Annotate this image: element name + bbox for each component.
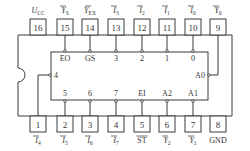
svg-text:I2: I2: [138, 6, 145, 16]
inversion-bubble: [192, 50, 195, 53]
inner-label-eo: EO: [60, 54, 71, 63]
inversion-bubble: [64, 100, 67, 103]
pin-number: 6: [165, 120, 170, 130]
inner-label-gs: GS: [85, 54, 95, 63]
pin-number: 13: [112, 23, 122, 33]
pin-number: 3: [88, 120, 93, 130]
inversion-bubble: [64, 50, 67, 53]
inversion-bubble: [141, 50, 144, 53]
svg-text:ST: ST: [137, 136, 146, 145]
pin-8-label: GND: [209, 136, 227, 145]
pin-9: 9Y0: [210, 6, 226, 35]
svg-text:GND: GND: [209, 136, 227, 145]
inversion-bubble: [192, 100, 195, 103]
pin-2: 2I5: [57, 116, 73, 146]
pin-number: 8: [216, 120, 221, 130]
pin-8: 8GND: [209, 116, 227, 145]
svg-text:Y0: Y0: [214, 6, 221, 16]
pin-4: 4I7: [108, 116, 124, 146]
pin-number: 7: [191, 120, 196, 130]
inversion-bubble: [166, 100, 169, 103]
svg-text:UCC: UCC: [31, 6, 44, 16]
pin-number: 4: [114, 120, 119, 130]
pin-12-label: I2: [137, 6, 145, 16]
inversion-bubble: [89, 50, 92, 53]
pin-6-label: Y2: [162, 136, 171, 146]
pin-3-label: I6: [85, 136, 93, 146]
inner-label-3: 3: [114, 54, 118, 63]
pin-1: 1I4: [30, 116, 46, 146]
pin-number: 9: [216, 23, 221, 33]
pin-3: 3I6: [82, 116, 98, 146]
pin-1-label: I4: [33, 136, 41, 146]
inner-label-2: 2: [140, 54, 144, 63]
pin-number: 1: [36, 120, 41, 130]
pin-number: 11: [163, 23, 172, 33]
pin-number: 2: [63, 120, 68, 130]
inner-label-a2: A2: [162, 89, 172, 98]
svg-text:I1: I1: [163, 6, 170, 16]
inner-label-1: 1: [165, 54, 169, 63]
pin-2-label: I5: [60, 136, 68, 146]
pin-16-label: UCC: [31, 6, 44, 16]
pin-wires: [38, 35, 218, 116]
inversion-bubble: [166, 50, 169, 53]
svg-text:Y1: Y1: [189, 136, 196, 146]
pin-9-label: Y0: [213, 6, 222, 16]
svg-text:YEX: YEX: [84, 6, 96, 16]
pin-10: 10I0: [185, 6, 201, 35]
inner-label-0: 0: [191, 54, 195, 63]
pin-6: 6Y2: [159, 116, 175, 146]
pin-5: 5ST: [134, 116, 150, 145]
svg-text:I3: I3: [112, 6, 119, 16]
inversion-bubble: [141, 100, 144, 103]
inversion-bubble: [89, 100, 92, 103]
svg-text:YS: YS: [61, 6, 69, 16]
inversion-bubble: [208, 74, 211, 77]
svg-text:I6: I6: [86, 136, 93, 146]
pin-4-label: I7: [111, 136, 119, 146]
inner-label-a1: A1: [188, 89, 198, 98]
svg-text:I0: I0: [189, 6, 196, 16]
pin-14-label: YEX: [84, 6, 96, 16]
inner-pin-labels: EOGS3210567EIA2A14A0: [54, 54, 205, 98]
inner-label-6: 6: [88, 89, 92, 98]
svg-text:I7: I7: [112, 136, 119, 146]
pin-16: 16UCC: [30, 6, 46, 35]
pin-number: 10: [189, 23, 199, 33]
pin-number: 16: [34, 23, 44, 33]
pin-7: 7Y1: [185, 116, 201, 146]
pin-7-label: Y1: [188, 136, 197, 146]
svg-text:I5: I5: [61, 136, 68, 146]
pin-5-label: ST: [137, 136, 148, 145]
pin-13-label: I3: [111, 6, 119, 16]
inner-label-5: 5: [63, 89, 67, 98]
pin-number: 15: [61, 23, 71, 33]
inner-label-ei: EI: [138, 89, 146, 98]
pin-number: 5: [140, 120, 145, 130]
pin-number: 12: [138, 23, 147, 33]
top-pin-row: 16UCC15YS14YEX13I312I211I110I09Y0: [30, 6, 226, 35]
bottom-pin-row: 1I42I53I64I75ST6Y27Y18GND: [30, 116, 227, 146]
svg-text:Y2: Y2: [163, 136, 170, 146]
inner-label-4: 4: [54, 71, 58, 80]
pin-10-label: I0: [188, 6, 196, 16]
pin-13: 13I3: [108, 6, 124, 35]
pin-14: 14YEX: [82, 6, 98, 35]
pin-number: 14: [86, 23, 96, 33]
svg-text:I4: I4: [34, 136, 41, 146]
pin-15: 15YS: [57, 6, 73, 35]
inversion-bubble: [115, 100, 118, 103]
pin-15-label: YS: [60, 6, 69, 16]
pin-11-label: I1: [162, 6, 170, 16]
inversion-bubble: [115, 50, 118, 53]
pin-12: 12I2: [134, 6, 150, 35]
inner-logic-block: [51, 52, 208, 100]
ic-pinout-diagram: 16UCC15YS14YEX13I312I211I110I09Y0 1I42I5…: [0, 0, 250, 151]
inversion-bubble: [49, 74, 52, 77]
inner-label-a0: A0: [195, 71, 205, 80]
inner-label-7: 7: [114, 89, 118, 98]
pin-11: 11I1: [159, 6, 175, 35]
